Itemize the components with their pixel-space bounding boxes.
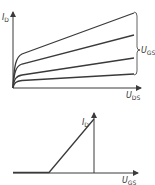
curve-ugs-3 [13,58,134,88]
top-y-label: ID [2,13,9,23]
top-x-label: UDS [126,91,140,101]
diagram-canvas: ID UDS UGS ID UGS [0,0,155,185]
top-plot: ID UDS UGS [2,12,155,101]
transfer-curve [13,119,94,173]
bottom-x-label: UGS [122,176,137,185]
curve-ugs-4 [13,74,134,88]
ugs-brace [134,12,140,75]
bottom-y-label: ID [82,118,89,128]
ugs-param-label: UGS [141,46,155,56]
bottom-plot: ID UGS [13,113,138,185]
